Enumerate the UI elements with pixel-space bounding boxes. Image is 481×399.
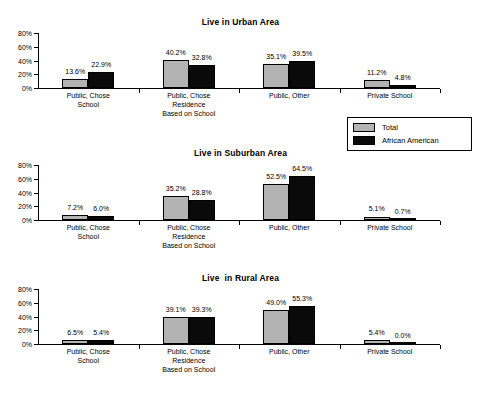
category-label: Public, Other bbox=[269, 91, 309, 100]
bar-total bbox=[163, 196, 189, 220]
y-axis-tick bbox=[34, 206, 38, 207]
y-axis-label: 20% bbox=[18, 327, 32, 334]
legend-label-african-american: African American bbox=[382, 136, 439, 145]
y-axis-label: 0% bbox=[22, 341, 32, 348]
plot-area-urban: 0%20%40%60%80%13.6%22.9%40.2%32.8%35.1%3… bbox=[38, 33, 440, 88]
y-axis-label: 80% bbox=[18, 286, 32, 293]
y-axis-tick bbox=[34, 344, 38, 345]
bar-total bbox=[163, 317, 189, 344]
bar-value-label: 4.8% bbox=[395, 74, 411, 81]
x-axis-separator-tick bbox=[239, 345, 240, 349]
y-axis-line bbox=[38, 289, 39, 344]
bar-value-label: 28.8% bbox=[192, 189, 212, 196]
bar-total bbox=[263, 64, 289, 88]
category-label: Public, Chose School bbox=[67, 223, 110, 241]
bar-value-label: 5.4% bbox=[93, 329, 109, 336]
bar-total bbox=[62, 340, 88, 344]
bar-value-label: 5.4% bbox=[369, 329, 385, 336]
bar-african-american bbox=[289, 176, 315, 220]
bar-african-american bbox=[289, 306, 315, 344]
bar-value-label: 5.1% bbox=[369, 205, 385, 212]
bar-african-american bbox=[189, 65, 215, 88]
y-axis-label: 80% bbox=[18, 162, 32, 169]
bar-african-american bbox=[390, 342, 416, 344]
y-axis-tick bbox=[34, 179, 38, 180]
y-axis-tick bbox=[34, 165, 38, 166]
bar-african-american bbox=[88, 216, 114, 220]
y-axis-tick bbox=[34, 289, 38, 290]
bar-african-american bbox=[390, 218, 416, 220]
chart-title-urban: Live in Urban Area bbox=[0, 17, 481, 27]
x-axis-separator-tick bbox=[340, 345, 341, 349]
bar-value-label: 39.1% bbox=[166, 306, 186, 313]
x-axis-separator-tick bbox=[440, 221, 441, 225]
legend-label-total: Total bbox=[382, 123, 398, 132]
bar-value-label: 0.7% bbox=[395, 208, 411, 215]
x-axis-separator-tick bbox=[139, 345, 140, 349]
bar-total bbox=[263, 184, 289, 220]
category-label: Public, Chose Residence Based on School bbox=[162, 223, 215, 250]
bar-value-label: 64.5% bbox=[292, 165, 312, 172]
bar-value-label: 7.2% bbox=[67, 204, 83, 211]
y-axis-label: 40% bbox=[18, 189, 32, 196]
y-axis-label: 60% bbox=[18, 175, 32, 182]
bar-african-american bbox=[88, 72, 114, 88]
y-axis-tick bbox=[34, 220, 38, 221]
y-axis-tick bbox=[34, 88, 38, 89]
y-axis-label: 0% bbox=[22, 85, 32, 92]
y-axis-label: 60% bbox=[18, 43, 32, 50]
bar-total bbox=[364, 217, 390, 221]
legend-item-total: Total bbox=[353, 121, 466, 134]
bar-value-label: 11.2% bbox=[367, 69, 386, 76]
bar-african-american bbox=[189, 317, 215, 344]
bar-value-label: 0.0% bbox=[395, 332, 411, 339]
y-axis-line bbox=[38, 33, 39, 88]
bar-african-american bbox=[189, 200, 215, 220]
bar-value-label: 6.0% bbox=[93, 205, 109, 212]
category-label: Private School bbox=[367, 223, 412, 232]
y-axis-label: 40% bbox=[18, 57, 32, 64]
plot-area-rural: 0%20%40%60%80%6.5%5.4%39.1%39.3%49.0%55.… bbox=[38, 289, 440, 344]
bar-total bbox=[163, 60, 189, 88]
y-axis-label: 80% bbox=[18, 30, 32, 37]
chart-title-rural: Live in Rural Area bbox=[0, 273, 481, 283]
x-axis-separator-tick bbox=[340, 89, 341, 93]
x-axis-separator-tick bbox=[440, 345, 441, 349]
bar-value-label: 55.3% bbox=[292, 295, 312, 302]
y-axis-tick bbox=[34, 74, 38, 75]
bar-value-label: 22.9% bbox=[91, 61, 111, 68]
y-axis-label: 20% bbox=[18, 203, 32, 210]
y-axis-tick bbox=[34, 47, 38, 48]
category-label: Private School bbox=[367, 347, 412, 356]
bar-total bbox=[364, 340, 390, 344]
bar-value-label: 13.6% bbox=[65, 68, 85, 75]
bar-total bbox=[364, 80, 390, 88]
category-label: Public, Other bbox=[269, 223, 309, 232]
y-axis-tick bbox=[34, 303, 38, 304]
bar-value-label: 32.8% bbox=[192, 54, 212, 61]
legend-swatch-african-american bbox=[353, 136, 375, 145]
category-label: Public, Chose Residence Based on School bbox=[162, 91, 215, 118]
bar-value-label: 35.2% bbox=[166, 185, 186, 192]
chart-panel-rural: Live in Rural Area 0%20%40%60%80%6.5%5.4… bbox=[0, 270, 481, 399]
chart-panel-suburban: Live in Suburban Area 0%20%40%60%80%7.2%… bbox=[0, 140, 481, 270]
category-label: Public, Chose Residence Based on School bbox=[162, 347, 215, 374]
legend-item-african-american: African American bbox=[353, 134, 466, 147]
y-axis-tick bbox=[34, 33, 38, 34]
y-axis-tick bbox=[34, 193, 38, 194]
x-axis-separator-tick bbox=[239, 89, 240, 93]
bar-total bbox=[62, 215, 88, 220]
y-axis-tick bbox=[34, 317, 38, 318]
x-axis-separator-tick bbox=[139, 89, 140, 93]
bar-value-label: 52.5% bbox=[266, 173, 286, 180]
bar-value-label: 6.5% bbox=[67, 329, 83, 336]
legend-swatch-total bbox=[353, 123, 375, 132]
y-axis-tick bbox=[34, 330, 38, 331]
y-axis-label: 20% bbox=[18, 71, 32, 78]
plot-area-suburban: 0%20%40%60%80%7.2%6.0%35.2%28.8%52.5%64.… bbox=[38, 165, 440, 220]
bar-african-american bbox=[88, 340, 114, 344]
x-axis-separator-tick bbox=[340, 221, 341, 225]
bar-african-american bbox=[390, 85, 416, 88]
x-axis-separator-tick bbox=[139, 221, 140, 225]
y-axis-tick bbox=[34, 61, 38, 62]
